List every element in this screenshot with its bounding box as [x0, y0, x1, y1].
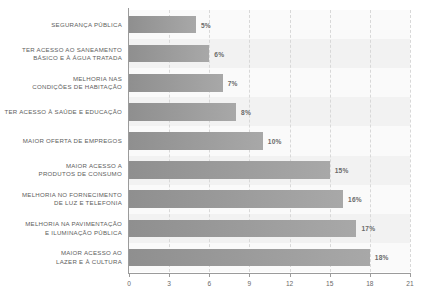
bar-value-label: 10% [268, 138, 282, 145]
bar-value-label: 5% [201, 21, 211, 28]
x-tick-label-9: 9 [248, 280, 252, 287]
category-label: MAIOR ACESSO A PRODUTOS DE CONSUMO [39, 162, 122, 178]
bar[interactable] [129, 220, 356, 238]
category-label: SEGURANÇA PÚBLICA [51, 20, 122, 28]
category-label: MELHORIA NAS CONDIÇÕES DE HABITAÇÃO [32, 75, 122, 91]
x-tick-label-3: 3 [167, 280, 171, 287]
bar-value-label: 17% [361, 225, 375, 232]
x-tick-label-15: 15 [326, 280, 333, 287]
category-label: TER ACESSO À SAÚDE E EDUCAÇÃO [5, 108, 123, 116]
bar[interactable] [129, 190, 343, 208]
bar[interactable] [129, 103, 236, 121]
x-axis-line [128, 273, 411, 274]
x-tick-15 [330, 273, 331, 277]
x-tick-9 [249, 273, 250, 277]
gridline-21 [410, 10, 411, 272]
x-tick-18 [370, 273, 371, 277]
x-tick-label-12: 12 [286, 280, 293, 287]
bar-value-label: 8% [241, 108, 251, 115]
gridline-18 [370, 10, 371, 272]
x-tick-3 [169, 273, 170, 277]
x-tick-label-0: 0 [127, 280, 131, 287]
category-label: MELHORIA NA PAVIMENTAÇÃO E ILUMINAÇÃO PÚ… [25, 220, 122, 236]
bar-value-label: 16% [348, 196, 362, 203]
category-axis-labels: SEGURANÇA PÚBLICATER ACESSO AO SANEAMENT… [0, 10, 126, 272]
bar-value-label: 7% [228, 79, 238, 86]
category-label: MAIOR ACESSO AO LAZER E À CULTURA [56, 249, 122, 265]
category-label: TER ACESSO AO SANEAMENTO BÁSICO E À ÁGUA… [22, 45, 122, 61]
x-tick-label-6: 6 [207, 280, 211, 287]
x-tick-label-21: 21 [406, 280, 413, 287]
bar[interactable] [129, 74, 223, 92]
x-tick-6 [209, 273, 210, 277]
plot-area: 5%6%7%8%10%15%16%17%18% [129, 10, 410, 272]
x-tick-21 [410, 273, 411, 277]
category-label: MAIOR OFERTA DE EMPREGOS [23, 137, 122, 145]
bar-value-label: 18% [375, 254, 389, 261]
x-tick-label-18: 18 [366, 280, 373, 287]
bar[interactable] [129, 45, 209, 63]
horizontal-bar-chart: SEGURANÇA PÚBLICATER ACESSO AO SANEAMENT… [0, 0, 430, 306]
y-axis-line [128, 8, 129, 274]
category-label: MELHORIA NO FORNECIMENTO DE LUZ E TELEFO… [22, 191, 122, 207]
bar-value-label: 6% [214, 50, 224, 57]
bar-value-label: 15% [335, 167, 349, 174]
bar[interactable] [129, 16, 196, 34]
bar[interactable] [129, 161, 330, 179]
bar[interactable] [129, 249, 370, 267]
x-tick-12 [290, 273, 291, 277]
bar[interactable] [129, 132, 263, 150]
x-tick-0 [129, 273, 130, 277]
